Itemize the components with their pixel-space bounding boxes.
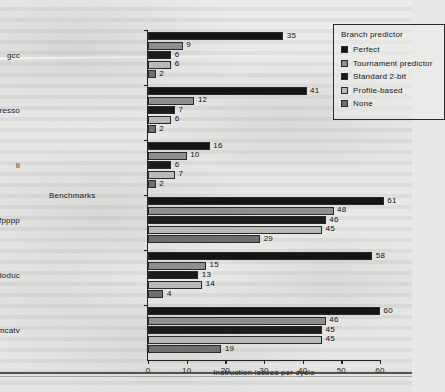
bar-row: 6 (148, 161, 380, 169)
bar-value-label: 7 (179, 169, 184, 178)
bar-row: 61 (148, 197, 380, 205)
x-tick-mark (303, 360, 304, 364)
bar-row: 46 (148, 317, 380, 325)
bar[interactable] (148, 271, 198, 279)
benchmark-bar-chart: Benchmarks 0102030405060 359662411276216… (40, 16, 372, 376)
x-tick-mark (264, 360, 265, 364)
category-label-tomcatv: tomcatv (0, 326, 20, 335)
bar[interactable] (148, 61, 171, 69)
bar-row: 29 (148, 235, 380, 243)
bar[interactable] (148, 326, 322, 334)
bar[interactable] (148, 317, 326, 325)
y-tick-mark (144, 85, 148, 86)
bar-group: 6046454519 (148, 307, 380, 355)
bar[interactable] (148, 290, 163, 298)
bar-row: 60 (148, 307, 380, 315)
bar-value-label: 4 (167, 289, 172, 298)
bar[interactable] (148, 307, 380, 315)
bar[interactable] (148, 207, 334, 215)
bar-row: 45 (148, 336, 380, 344)
bar[interactable] (148, 216, 326, 224)
legend-item[interactable]: Profile-based (341, 84, 444, 98)
bar-value-label: 7 (179, 105, 184, 114)
bar-row: 2 (148, 180, 380, 188)
bar-value-label: 41 (310, 86, 319, 95)
legend-item[interactable]: Standard 2-bit (341, 70, 444, 84)
bar[interactable] (148, 142, 210, 150)
bar[interactable] (148, 106, 175, 114)
bar-row: 10 (148, 152, 380, 160)
bar-value-label: 60 (384, 306, 393, 315)
bar-value-label: 58 (376, 251, 385, 260)
legend-label: Profile-based (353, 86, 403, 95)
x-tick-mark (380, 360, 381, 364)
bar[interactable] (148, 42, 183, 50)
legend-swatch-icon (341, 46, 348, 53)
bar[interactable] (148, 152, 187, 160)
x-tick-mark (148, 360, 149, 364)
bar[interactable] (148, 125, 156, 133)
legend-item[interactable]: None (341, 97, 444, 111)
x-tick-mark (341, 360, 342, 364)
bar[interactable] (148, 51, 171, 59)
category-label-li: li (16, 161, 20, 170)
y-axis-title: Benchmarks (49, 191, 95, 200)
y-tick-mark (144, 250, 148, 251)
bar-value-label: 2 (159, 179, 164, 188)
bar-value-label: 48 (337, 205, 346, 214)
bar[interactable] (148, 161, 171, 169)
bar[interactable] (148, 32, 283, 40)
bar[interactable] (148, 336, 322, 344)
legend-item[interactable]: Tournament predictor (341, 57, 444, 71)
bar[interactable] (148, 197, 384, 205)
page-horizontal-rule-secondary (0, 376, 412, 377)
legend-item[interactable]: Perfect (341, 43, 444, 57)
bar-value-label: 6 (175, 114, 180, 123)
bar[interactable] (148, 97, 194, 105)
legend-items: PerfectTournament predictorStandard 2-bi… (341, 43, 444, 111)
bar-row: 45 (148, 326, 380, 334)
y-tick-mark (144, 140, 148, 141)
legend-label: None (353, 99, 373, 108)
bar[interactable] (148, 345, 221, 353)
bar-value-label: 35 (287, 31, 296, 40)
bar-value-label: 29 (264, 234, 273, 243)
bar-row: 48 (148, 207, 380, 215)
bar-group: 581513144 (148, 252, 380, 300)
bar[interactable] (148, 281, 202, 289)
bar[interactable] (148, 180, 156, 188)
y-tick-mark (144, 305, 148, 306)
x-tick-mark (225, 360, 226, 364)
bar-row: 19 (148, 345, 380, 353)
category-label-fpppp: fpppp (0, 216, 20, 225)
bar-value-label: 19 (225, 344, 234, 353)
bar-value-label: 14 (206, 279, 215, 288)
bar[interactable] (148, 171, 175, 179)
bar-row: 46 (148, 216, 380, 224)
bar[interactable] (148, 252, 372, 260)
bar[interactable] (148, 262, 206, 270)
bar-row: 7 (148, 171, 380, 179)
bar-value-label: 45 (326, 224, 335, 233)
legend-swatch-icon (341, 60, 348, 67)
bar[interactable] (148, 70, 156, 78)
legend-label: Perfect (353, 45, 380, 54)
bar-row: 45 (148, 226, 380, 234)
bar-value-label: 16 (213, 141, 222, 150)
legend-swatch-icon (341, 100, 348, 107)
legend-label: Tournament predictor (353, 59, 433, 68)
bar[interactable] (148, 116, 171, 124)
bar-value-label: 61 (387, 196, 396, 205)
bar-value-label: 2 (159, 69, 164, 78)
page-horizontal-rule (0, 372, 412, 374)
y-tick-mark (144, 30, 148, 31)
bar-row: 16 (148, 142, 380, 150)
bar-value-label: 2 (159, 124, 164, 133)
bar[interactable] (148, 226, 322, 234)
bar-value-label: 6 (175, 50, 180, 59)
legend: Branch predictor PerfectTournament predi… (333, 24, 445, 120)
bar-value-label: 9 (186, 40, 191, 49)
bar[interactable] (148, 87, 307, 95)
category-label-espresso: espresso (0, 106, 20, 115)
bar[interactable] (148, 235, 260, 243)
